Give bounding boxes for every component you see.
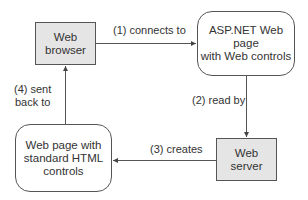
node-label: with Web controls bbox=[198, 50, 294, 63]
node-label: Web bbox=[45, 31, 86, 44]
node-web-browser: Web browser bbox=[35, 22, 96, 65]
edge-label-line: (4) sent bbox=[14, 83, 51, 96]
node-web-server: Web server bbox=[216, 138, 277, 181]
node-label: controls bbox=[24, 165, 103, 178]
node-label: Web bbox=[231, 147, 263, 160]
node-label: ASP.NET Web page bbox=[198, 24, 294, 50]
node-html-web-page: Web page with standard HTML controls bbox=[15, 124, 112, 192]
edge-label-read-by: (2) read by bbox=[192, 94, 245, 107]
node-label: Web page with bbox=[24, 139, 103, 152]
node-label: server bbox=[231, 160, 263, 173]
node-label: standard HTML bbox=[24, 152, 103, 165]
node-label: browser bbox=[45, 44, 86, 57]
edge-label-sent-back-to: (4) sent back to bbox=[14, 83, 51, 109]
edge-label-creates: (3) creates bbox=[150, 143, 203, 156]
edge-label-connects-to: (1) connects to bbox=[113, 24, 186, 37]
node-aspnet-web-page: ASP.NET Web page with Web controls bbox=[197, 11, 295, 76]
edge-label-line: back to bbox=[14, 96, 51, 109]
